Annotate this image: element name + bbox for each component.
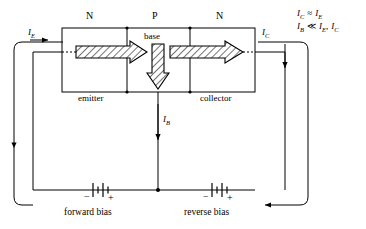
- equation-line-2: IB≪IE,IC: [297, 21, 339, 33]
- terminal-label-base: base: [144, 31, 160, 41]
- current-label-emitter-sub: E: [31, 32, 35, 39]
- region-label-n-collector: N: [216, 10, 223, 21]
- reverse-bias-plus-sign: +: [227, 192, 233, 203]
- eq2-rhs2-sub: C: [334, 26, 338, 33]
- eq1-lhs-sub: C: [300, 13, 304, 20]
- current-label-collector: IC: [262, 27, 269, 39]
- current-label-collector-sub: C: [265, 32, 269, 39]
- left-loop-arrowhead: [11, 143, 16, 149]
- terminal-label-collector: collector: [200, 93, 231, 103]
- eq1-relation: ≈: [307, 8, 312, 18]
- eq2-separator: ,: [326, 21, 328, 31]
- current-label-emitter: IE: [28, 27, 35, 39]
- right-loop-arrowhead: [265, 202, 271, 207]
- figure-canvas: N P N base emitter collector IE IC IB − …: [0, 0, 366, 229]
- reverse-bias-minus-sign: −: [203, 191, 209, 202]
- current-label-base-sub: B: [166, 119, 170, 126]
- eq2-lhs-sub: B: [300, 26, 304, 33]
- outer-loop-left: [14, 42, 63, 205]
- emitter-carrier-arrow: [76, 41, 147, 63]
- reverse-bias-caption: reverse bias: [184, 207, 229, 217]
- base-carrier-arrow: [147, 44, 169, 89]
- circuit-diagram: [0, 0, 366, 229]
- collector-carrier-arrow: [170, 41, 243, 63]
- equation-line-1: IC≈IE: [297, 8, 322, 20]
- region-label-n-emitter: N: [86, 10, 93, 21]
- terminal-label-emitter: emitter: [78, 93, 104, 103]
- outer-loop-right: [258, 42, 308, 205]
- forward-bias-minus-sign: −: [84, 191, 90, 202]
- current-label-base: IB: [163, 114, 170, 126]
- eq1-rhs-sub: E: [318, 13, 322, 20]
- forward-bias-caption: forward bias: [64, 207, 112, 217]
- region-label-p-base: P: [152, 10, 158, 21]
- eq2-relation: ≪: [307, 21, 316, 31]
- forward-bias-plus-sign: +: [108, 192, 114, 203]
- base-node-dot: [156, 188, 160, 192]
